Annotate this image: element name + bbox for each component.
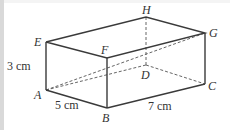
- edge-AD: [46, 65, 146, 90]
- top-face: [46, 17, 205, 58]
- vertex-label-G: G: [209, 26, 218, 40]
- edge-DC: [146, 65, 205, 84]
- vertex-label-H: H: [141, 3, 152, 17]
- dimension-length: 7 cm: [148, 99, 172, 113]
- vertex-label-E: E: [33, 35, 42, 49]
- dimension-width: 5 cm: [55, 98, 79, 112]
- cuboid-diagram: E F H G A B C D 3 cm 5 cm 7 cm: [0, 0, 230, 130]
- vertex-label-A: A: [33, 88, 42, 102]
- vertex-label-F: F: [100, 43, 109, 57]
- vertex-label-D: D: [140, 68, 150, 82]
- vertex-label-C: C: [208, 79, 217, 93]
- dimension-height: 3 cm: [7, 59, 31, 73]
- diagonal-AG: [46, 33, 205, 90]
- vertex-label-B: B: [102, 111, 110, 125]
